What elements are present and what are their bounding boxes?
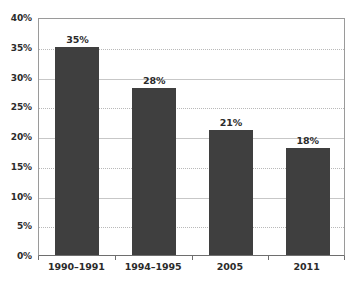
x-tick-label: 2005 <box>217 261 243 272</box>
bar-value-label: 28% <box>143 75 165 86</box>
bar-slot: 18% <box>269 19 346 255</box>
y-tick-label: 15% <box>11 162 32 172</box>
x-tick <box>344 256 345 260</box>
x-tick-label: 2011 <box>294 261 320 272</box>
x-tick <box>192 256 193 260</box>
y-axis: 0%5%10%15%20%25%30%35%40% <box>0 0 36 289</box>
y-tick-label: 25% <box>11 102 32 112</box>
bar-value-label: 35% <box>66 34 88 45</box>
bar-value-label: 21% <box>220 117 242 128</box>
bar[interactable] <box>132 88 176 255</box>
x-tick <box>268 256 269 260</box>
bars-layer: 35%28%21%18% <box>39 19 344 255</box>
y-tick-label: 5% <box>17 221 32 231</box>
bar-chart: 0%5%10%15%20%25%30%35%40% 35%28%21%18% 1… <box>0 0 354 289</box>
x-tick <box>38 256 39 260</box>
y-tick-label: 0% <box>17 251 32 261</box>
y-tick-label: 20% <box>11 132 32 142</box>
bar-slot: 21% <box>193 19 270 255</box>
y-tick-label: 35% <box>11 43 32 53</box>
bar-slot: 28% <box>116 19 193 255</box>
bar-slot: 35% <box>39 19 116 255</box>
bar[interactable] <box>55 47 99 255</box>
plot-area: 35%28%21%18% <box>38 18 345 256</box>
x-tick-label: 1994–1995 <box>125 261 182 272</box>
y-tick-label: 40% <box>11 13 32 23</box>
y-tick-label: 10% <box>11 192 32 202</box>
bar[interactable] <box>209 130 253 255</box>
y-tick-label: 30% <box>11 73 32 83</box>
x-tick-label: 1990–1991 <box>48 261 105 272</box>
x-axis: 1990–19911994–199520052011 <box>38 261 345 281</box>
bar[interactable] <box>286 148 330 255</box>
x-tick <box>115 256 116 260</box>
bar-value-label: 18% <box>296 135 318 146</box>
